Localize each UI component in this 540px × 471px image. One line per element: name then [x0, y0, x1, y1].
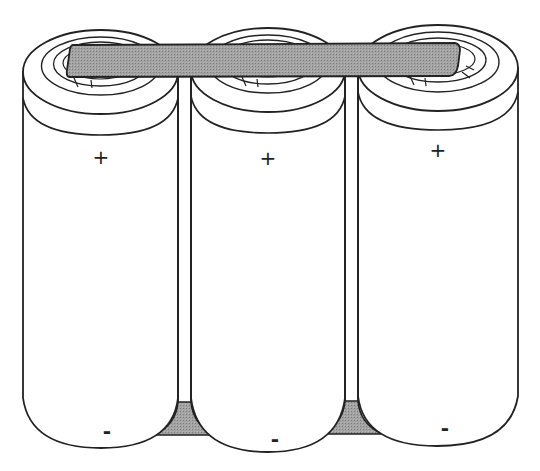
battery-pack-diagram: + + + - - - — [0, 0, 540, 471]
cell-2 — [191, 28, 345, 452]
cell-1 — [23, 30, 178, 448]
cell-3 — [358, 25, 518, 446]
cell-1-negative-label: - — [103, 421, 111, 441]
connector-strap — [67, 43, 460, 77]
cell-3-positive-label: + — [430, 140, 447, 160]
cell-2-positive-label: + — [260, 148, 277, 168]
battery-pack-drawing — [0, 0, 540, 471]
cell-2-negative-label: - — [271, 429, 279, 449]
cell-1-positive-label: + — [93, 147, 110, 167]
cell-3-negative-label: - — [441, 418, 449, 438]
